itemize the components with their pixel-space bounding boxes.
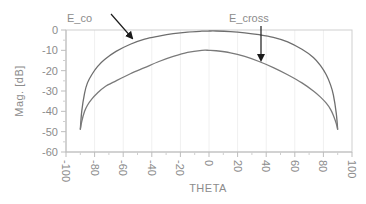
y-tick-label: -30	[42, 85, 58, 97]
y-tick-label: -10	[42, 44, 58, 56]
x-tick-label: 20	[232, 160, 244, 172]
x-axis-ticks: -100-80-60-40-20020406080100	[60, 152, 358, 182]
x-tick-label: 0	[203, 160, 215, 166]
annotation-e-cross-label: E_cross	[229, 12, 269, 24]
y-tick-label: -40	[42, 105, 58, 117]
gridlines	[95, 30, 324, 152]
x-tick-label: 60	[289, 160, 301, 172]
x-tick-label: -20	[174, 160, 186, 176]
y-tick-label: -20	[42, 65, 58, 77]
x-tick-label: 40	[260, 160, 272, 172]
x-tick-label: -60	[117, 160, 129, 176]
y-tick-label: -60	[42, 146, 58, 158]
y-axis-ticks: 0-10-20-30-40-50-60	[42, 24, 66, 158]
x-tick-label: 100	[346, 160, 358, 178]
x-tick-label: -80	[89, 160, 101, 176]
y-axis-title: Mag. [dB]	[13, 65, 25, 117]
x-tick-label: -100	[60, 160, 72, 182]
y-tick-label: 0	[52, 24, 58, 36]
annotation-e-co-label: E_co	[67, 12, 92, 24]
chart: 0-10-20-30-40-50-60 -100-80-60-40-200204…	[0, 0, 366, 204]
x-tick-label: 80	[317, 160, 329, 172]
x-tick-label: -40	[146, 160, 158, 176]
annotation-e-co-arrow	[111, 14, 132, 38]
x-axis-title: THETA	[189, 182, 227, 194]
y-tick-label: -50	[42, 126, 58, 138]
